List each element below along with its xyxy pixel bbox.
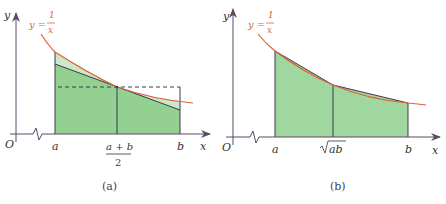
caption-a: (a): [102, 180, 117, 193]
tangent-point: [116, 86, 119, 89]
function-label-lhs: y =: [247, 19, 265, 30]
function-label-denominator: x: [48, 25, 53, 35]
tick-label-mid-numerator: a + b: [106, 141, 133, 152]
panel-b: y O x a ab b y = 1 x (b): [222, 9, 440, 193]
origin-label: O: [5, 138, 14, 151]
y-axis-label: y: [222, 10, 230, 23]
x-axis-label: x: [432, 144, 439, 157]
caption-b: (b): [330, 180, 346, 193]
function-label-numerator: 1: [268, 10, 274, 20]
function-label-lhs: y =: [28, 19, 46, 30]
panel-a: y O x a a + b 2 b y = 1 x (a): [3, 9, 210, 193]
diagram-canvas: y O x a a + b 2 b y = 1 x (a) y O x a: [0, 0, 446, 204]
tick-label-a: a: [52, 140, 59, 153]
tick-label-mid: ab: [329, 143, 343, 156]
y-axis-label: y: [3, 9, 11, 22]
function-label-numerator: 1: [49, 10, 55, 20]
tick-label-b: b: [405, 143, 412, 156]
x-axis-label: x: [200, 140, 207, 153]
tick-label-a: a: [272, 143, 279, 156]
region-chord-area: [275, 51, 408, 137]
function-label-denominator: x: [267, 25, 272, 35]
tick-label-b: b: [177, 140, 184, 153]
origin-label: O: [222, 141, 231, 154]
tick-label-mid-denominator: 2: [115, 157, 121, 168]
